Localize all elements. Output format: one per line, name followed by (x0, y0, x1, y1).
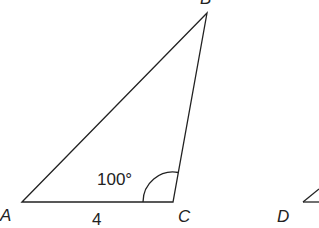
vertex-label-a: A (0, 206, 11, 225)
vertex-label-c: C (178, 207, 191, 226)
diagram-canvas: A B C 100° 4 D (0, 0, 319, 228)
vertex-label-d: D (277, 207, 289, 226)
side-ac-length: 4 (92, 210, 101, 228)
vertex-label-b: B (200, 0, 211, 8)
angle-c-measure: 100° (97, 170, 132, 189)
geometry-diagram: A B C 100° 4 D (0, 0, 319, 228)
background (0, 0, 319, 228)
